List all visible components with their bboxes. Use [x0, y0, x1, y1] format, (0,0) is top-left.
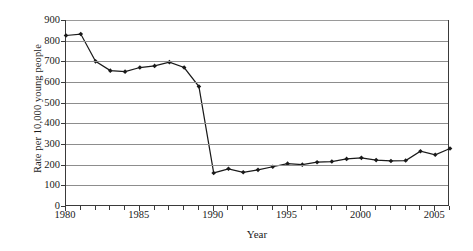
y-tick-label: 400: [18, 117, 60, 128]
x-tick-label: 1990: [191, 209, 235, 220]
data-point-marker: [330, 159, 335, 164]
x-tick-mark: [95, 206, 96, 210]
x-tick-mark: [405, 206, 406, 210]
gridline: [66, 185, 448, 186]
plot-area: [65, 20, 449, 206]
y-tick-label: 800: [18, 35, 60, 46]
x-tick-label: 1985: [117, 209, 161, 220]
gridline: [66, 82, 448, 83]
x-tick-label: 2005: [412, 209, 456, 220]
data-point-marker: [256, 168, 261, 173]
y-tick-label: 900: [18, 14, 60, 25]
x-tick-mark: [168, 206, 169, 210]
data-point-marker: [138, 65, 143, 70]
x-tick-label: 1980: [43, 209, 87, 220]
gridline: [66, 41, 448, 42]
x-tick-mark: [109, 206, 110, 210]
x-tick-mark: [257, 206, 258, 210]
y-tick-label: 100: [18, 179, 60, 190]
data-point-marker: [344, 157, 349, 162]
data-point-marker: [64, 33, 69, 38]
y-tick-label: 500: [18, 97, 60, 108]
x-tick-mark: [183, 206, 184, 210]
data-point-marker: [359, 156, 364, 161]
x-tick-mark: [242, 206, 243, 210]
data-series-line: [66, 20, 450, 206]
gridline: [66, 123, 448, 124]
data-point-marker: [226, 167, 231, 172]
data-point-marker: [123, 69, 128, 74]
data-point-marker: [241, 170, 246, 175]
gridline: [66, 20, 448, 21]
x-tick-mark: [390, 206, 391, 210]
y-tick-label: 300: [18, 138, 60, 149]
y-tick-label: 700: [18, 55, 60, 66]
gridline: [66, 61, 448, 62]
x-axis-title: Year: [65, 228, 449, 240]
x-tick-mark: [316, 206, 317, 210]
gridline: [66, 103, 448, 104]
data-point-marker: [433, 152, 438, 157]
data-point-marker: [374, 158, 379, 163]
chart-figure: Rate per 10,000 young people 01002003004…: [0, 0, 473, 251]
y-tick-label: 600: [18, 76, 60, 87]
x-tick-label: 2000: [338, 209, 382, 220]
data-point-marker: [152, 64, 157, 69]
x-tick-label: 1995: [265, 209, 309, 220]
gridline: [66, 165, 448, 166]
data-point-marker: [211, 171, 216, 176]
x-tick-mark: [331, 206, 332, 210]
data-point-marker: [78, 32, 83, 37]
y-tick-label: 200: [18, 159, 60, 170]
data-point-marker: [389, 159, 394, 164]
gridline: [66, 144, 448, 145]
